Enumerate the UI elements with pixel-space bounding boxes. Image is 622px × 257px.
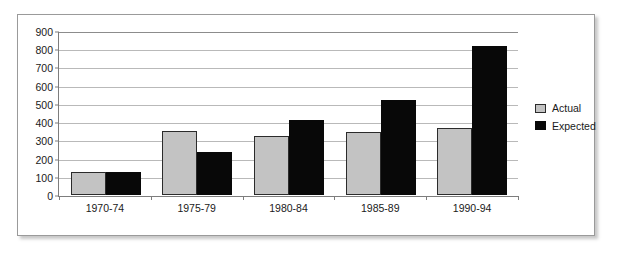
bar-group [60, 32, 152, 195]
bar-expected-1990-94[interactable] [472, 46, 507, 195]
x-axis-labels: 1970-741975-791980-841985-891990-94 [59, 196, 518, 214]
y-tick-label: 0 [47, 191, 59, 202]
bar-expected-1975-79[interactable] [197, 152, 232, 195]
bar-actual-1970-74[interactable] [71, 172, 106, 195]
y-tick-label: 400 [35, 118, 59, 129]
bar-actual-1985-89[interactable] [346, 132, 381, 195]
y-tick-label: 300 [35, 136, 59, 147]
bar-expected-1970-74[interactable] [106, 172, 141, 195]
y-tick-label: 100 [35, 173, 59, 184]
y-tick-label: 700 [35, 63, 59, 74]
bar-expected-1980-84[interactable] [289, 120, 324, 195]
bar-groups [60, 32, 518, 195]
plot-wrapper: 9008007006005004003002001000 1970-741975… [58, 32, 518, 197]
plot-area: 9008007006005004003002001000 1970-741975… [58, 32, 518, 197]
legend-item-expected[interactable]: Expected [535, 121, 596, 132]
y-tick-label: 600 [35, 81, 59, 92]
bar-group [152, 32, 244, 195]
x-tick-mark [518, 196, 519, 200]
chart-screenshot: 9008007006005004003002001000 1970-741975… [0, 0, 622, 257]
x-axis-label-1990-94: 1990-94 [426, 196, 518, 214]
chart-legend: ActualExpected [535, 103, 596, 131]
y-tick-label: 200 [35, 154, 59, 165]
legend-label: Actual [552, 103, 581, 114]
y-tick-label: 500 [35, 100, 59, 111]
legend-label: Expected [552, 121, 596, 132]
bar-group [335, 32, 427, 195]
x-axis-label-1970-74: 1970-74 [59, 196, 151, 214]
bar-actual-1975-79[interactable] [162, 131, 197, 195]
legend-swatch-expected-icon [535, 121, 546, 130]
x-axis-label-1985-89: 1985-89 [334, 196, 426, 214]
bar-actual-1980-84[interactable] [254, 136, 289, 195]
bar-group [243, 32, 335, 195]
chart-frame: 9008007006005004003002001000 1970-741975… [17, 14, 595, 236]
x-axis-label-1980-84: 1980-84 [243, 196, 335, 214]
bar-expected-1985-89[interactable] [381, 100, 416, 195]
bar-actual-1990-94[interactable] [437, 128, 472, 195]
y-tick-label: 800 [35, 45, 59, 56]
legend-swatch-actual-icon [535, 104, 546, 113]
y-tick-label: 900 [35, 27, 59, 38]
x-axis-label-1975-79: 1975-79 [151, 196, 243, 214]
legend-item-actual[interactable]: Actual [535, 103, 596, 114]
bar-group [426, 32, 518, 195]
